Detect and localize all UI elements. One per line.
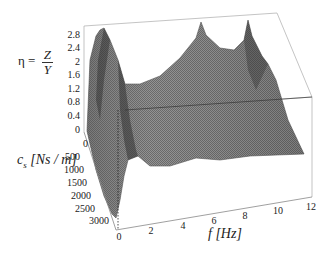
y-label-unit: [Ns / m]: [30, 152, 77, 167]
z-label-fraction: Z Y: [42, 48, 53, 77]
x-axis-label: f [Hz]: [208, 226, 242, 242]
z-label-lhs: η =: [18, 53, 35, 68]
x-tick: 2: [144, 225, 158, 236]
x-tick: 8: [238, 210, 252, 221]
x-tick: 6: [207, 215, 221, 226]
z-tick: 2.8: [56, 29, 80, 40]
y-tick: 1500: [57, 177, 87, 188]
z-tick: 0.8: [56, 96, 80, 107]
y-label-subscript: s: [23, 160, 27, 170]
z-tick: 2: [56, 56, 80, 67]
z-tick: 2.4: [56, 42, 80, 53]
z-tick: 0: [56, 124, 80, 135]
y-axis-label: cs [Ns / m]: [17, 152, 77, 170]
x-tick: 12: [304, 201, 318, 212]
z-tick: 0.4: [56, 110, 80, 121]
x-label-symbol: f: [208, 226, 212, 241]
plot-area: [0, 0, 328, 256]
z-label-denominator: Y: [42, 63, 53, 77]
y-tick: 0: [58, 138, 88, 149]
z-label-numerator: Z: [42, 48, 53, 63]
x-tick: 10: [271, 205, 285, 216]
x-tick: 4: [176, 220, 190, 231]
y-tick: 3000: [79, 215, 109, 226]
z-tick: 1.2: [56, 83, 80, 94]
surface: [87, 20, 312, 230]
y-tick: 2500: [65, 203, 95, 214]
x-label-unit: [Hz]: [215, 226, 241, 241]
z-tick: 1.6: [56, 69, 80, 80]
surface-chart: 2.8 2.4 2 1.6 1.2 0.8 0.4 0 η = Z Y 0 50…: [0, 0, 328, 256]
z-axis-label: η = Z Y: [18, 48, 53, 77]
x-tick: 0: [112, 231, 126, 242]
y-tick: 2000: [61, 190, 91, 201]
